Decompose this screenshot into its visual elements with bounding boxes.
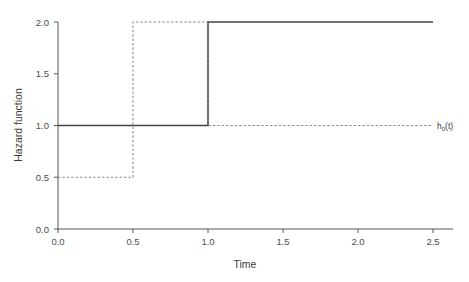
x-tick-label-2.0: 2.0 [351,236,364,247]
series-line-h0t [58,22,433,177]
hazard-function-chart-figure: 2.0 1.5 1.0 0.5 0.0 0.0 0.5 1.0 1.5 2.0 … [0,0,469,282]
series-line-ht [58,22,433,126]
y-tick-label-0.0: 0.0 [36,224,49,235]
y-axis-tickmarks [54,22,58,229]
x-axis-tickmarks [58,229,433,233]
x-axis-title: Time [234,258,257,270]
y-tick-label-0.5: 0.5 [36,172,49,183]
x-tick-label-1.5: 1.5 [276,236,289,247]
baseline-hazard-annotation: h0(t) [437,121,453,133]
y-tick-label-1.0: 1.0 [36,120,49,131]
y-tick-label-1.5: 1.5 [36,68,49,79]
y-tick-label-2.0: 2.0 [36,17,49,28]
baseline-hazard-annotation-tail: (t) [445,121,453,131]
y-axis-title: Hazard function [12,88,24,162]
x-tick-label-2.5: 2.5 [426,236,439,247]
chart-canvas: 2.0 1.5 1.0 0.5 0.0 0.0 0.5 1.0 1.5 2.0 … [0,0,469,282]
x-tick-label-0.0: 0.0 [51,236,64,247]
x-tick-label-1.0: 1.0 [201,236,214,247]
x-tick-label-0.5: 0.5 [126,236,139,247]
